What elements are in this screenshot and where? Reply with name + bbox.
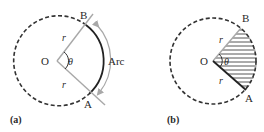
dashed-circle-a [14,16,89,106]
radius-label-top-a: r [62,32,66,43]
center-label-b: O [200,55,208,67]
angle-label-a: θ [68,56,73,67]
point-a-label-a: A [84,98,92,110]
center-label-a: O [41,55,49,67]
arc-solid-a [86,25,104,94]
point-b-label-a: B [80,9,87,21]
panel-label-a: (a) [10,114,22,126]
angle-label-b: θ [224,56,229,67]
panel-label-b: (b) [167,114,179,126]
radius-label-bottom-a: r [62,79,66,90]
point-b-label-b: B [242,12,249,24]
radius-label-bottom-b: r [219,75,223,86]
circle-sector-diagram: O B A r r θ Arc (a) O B A r r θ (b) [0,0,264,132]
figure-a: O B A r r θ Arc (a) [10,9,125,126]
arc-label: Arc [108,55,125,67]
figure-b: O B A r r θ (b) [167,12,257,126]
radius-label-top-b: r [219,34,223,45]
point-a-label-b: A [245,92,253,104]
